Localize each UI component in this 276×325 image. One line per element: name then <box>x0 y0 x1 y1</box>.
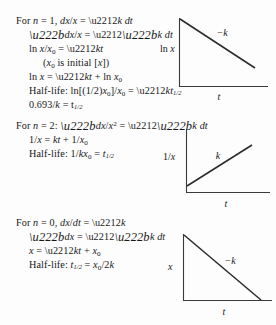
equation-line: 1/x = kt + 1/x0 <box>0 133 168 147</box>
equation-line: x = \u2212kt + x0 <box>0 244 168 258</box>
data-line <box>184 235 261 300</box>
y-axis-label: ln x <box>160 43 175 54</box>
slope-annotation: −k <box>216 27 228 38</box>
equation-line: For n = 2: \u222bdx/x2 = \u2212\u222bk d… <box>0 119 168 133</box>
y-axis-label: 1/x <box>163 151 176 162</box>
chart-x-vs-t: x t −k <box>160 222 276 322</box>
equation-line: \u222bdx/x = \u2212\u222bk dt <box>0 28 168 42</box>
equation-line: 0.693/k = t1/2 <box>0 98 168 112</box>
equation-line: For n = 1, dx/x = \u2212k dt <box>0 14 168 28</box>
chart-inverse-x-vs-t: 1/x t k <box>160 116 276 212</box>
x-axis-label: t <box>223 306 226 317</box>
equations-column: For n = 1, dx/x = \u2212k dt \u222bdx/x … <box>0 0 168 325</box>
y-axis-label: x <box>167 261 173 272</box>
equation-line: For n = 0, dx/dt = \u2212k <box>0 216 168 230</box>
equation-block-order-1: For n = 1, dx/x = \u2212k dt \u222bdx/x … <box>0 14 168 112</box>
equation-line: ln x = \u2212kt + ln x0 <box>0 70 168 84</box>
equation-block-order-0: For n = 0, dx/dt = \u2212k \u222bdx = \u… <box>0 216 168 272</box>
x-axis-label: t <box>218 91 221 102</box>
figure-page: For n = 1, dx/x = \u2212k dt \u222bdx/x … <box>0 0 276 325</box>
equation-block-order-2: For n = 2: \u222bdx/x2 = \u2212\u222bk d… <box>0 119 168 161</box>
equation-line: Half-life: ln[(1/2)x0]/x0 = \u2212kt1/2 <box>0 84 168 98</box>
equation-line: Half-life: t1/2 = x0/2k <box>0 258 168 272</box>
equation-line: \u222bdx = \u2212\u222bk dt <box>0 230 168 244</box>
equation-line: ln x/x0 = \u2212kt <box>0 42 168 56</box>
slope-annotation: k <box>216 150 221 161</box>
equation-line: Half-life: 1/kx0 = t1/2 <box>0 147 168 161</box>
equation-line: (x0 is initial [x]) <box>0 56 168 70</box>
x-axis-label: t <box>225 198 228 209</box>
chart-ln-x-vs-t: ln x t −k <box>160 10 276 110</box>
slope-annotation: −k <box>224 255 236 266</box>
